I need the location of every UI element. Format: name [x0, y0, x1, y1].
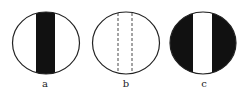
black-band [36, 10, 55, 80]
figure-b [93, 12, 160, 74]
figure-label-b: b [123, 78, 129, 89]
figure-c [170, 10, 236, 80]
figure-a [13, 10, 80, 80]
white-band [193, 10, 212, 80]
figure-label-a: a [42, 78, 48, 89]
circle-outline [93, 12, 160, 74]
figure-label-c: c [201, 78, 207, 89]
